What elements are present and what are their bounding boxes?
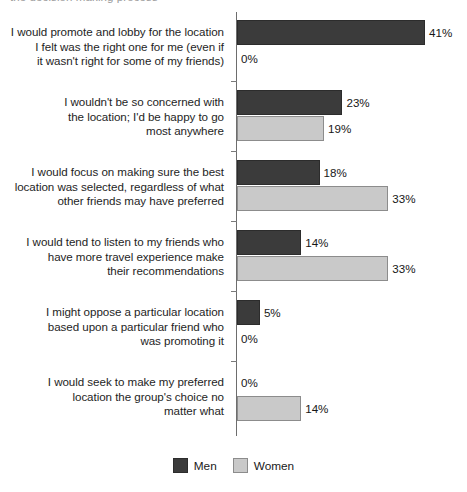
category-label-line: I would focus on making sure the best [3,165,224,180]
legend-swatch-men-icon [173,458,188,473]
bar-value-men: 18% [320,166,347,179]
legend-label-men: Men [194,459,217,473]
category-label: I would focus on making sure the bestloc… [3,165,231,209]
category-label-line: it wasn't right for some of my friends) [3,54,224,69]
category-label: I wouldn't be so concerned withthe locat… [3,95,231,139]
bar-row-women: 19% [237,116,351,141]
bar-row-women: 33% [237,186,416,211]
bar-row-women: 14% [237,396,328,421]
bar-value-women: 33% [388,262,415,275]
axis-tick [231,291,237,292]
bar-value-women: 19% [324,122,351,135]
bar-men [237,160,320,185]
category-label-line: location was selected, regardless of wha… [3,180,224,195]
legend-item-men: Men [173,458,217,473]
axis-tick [231,151,237,152]
bar-men [237,20,425,45]
bar-row-women: 33% [237,256,416,281]
bar-group: I wouldn't be so concerned withthe locat… [0,87,467,157]
category-label-line: matter what [3,404,224,419]
bar-value-men: 5% [260,306,281,319]
category-label-line: have more travel experience make [3,250,224,265]
bar-group: I would seek to make my preferredlocatio… [0,367,467,437]
bar-row-men: 5% [237,300,281,325]
category-label-line: location the group's choice no [3,390,224,405]
bar-men [237,300,260,325]
legend-label-women: Women [254,459,294,473]
bar-value-men: 0% [237,376,258,389]
bar-group: I would promote and lobby for the locati… [0,17,467,87]
legend-swatch-women-icon [233,458,248,473]
category-label: I might oppose a particular locationbase… [3,305,231,349]
bar-row-men: 14% [237,230,328,255]
category-label-line: their recommendations [3,264,224,279]
bar-row-men: 41% [237,20,452,45]
bar-value-women: 14% [301,402,328,415]
category-label-line: was promoting it [3,334,224,349]
legend-item-women: Women [233,458,294,473]
category-label-line: I might oppose a particular location [3,305,224,320]
category-label-line: based upon a particular friend who [3,320,224,335]
category-label-line: I wouldn't be so concerned with [3,95,224,110]
chart-page: the decision making process I would prom… [0,0,467,492]
bar-value-men: 23% [342,96,369,109]
category-label-line: the location; I'd be happy to go [3,110,224,125]
category-label-line: I would tend to listen to my friends who [3,235,224,250]
bar-value-women: 0% [237,332,258,345]
bar-row-women: 0% [237,46,258,71]
bar-value-women: 0% [237,52,258,65]
category-label-line: I would seek to make my preferred [3,375,224,390]
category-label-line: most anywhere [3,124,224,139]
axis-tick [231,81,237,82]
bar-value-men: 14% [301,236,328,249]
bar-row-women: 0% [237,326,258,351]
axis-tick [231,221,237,222]
bar-value-women: 33% [388,192,415,205]
bar-value-men: 41% [425,26,452,39]
bar-row-men: 0% [237,370,258,395]
category-label: I would promote and lobby for the locati… [3,25,231,69]
bar-women [237,396,301,421]
category-label: I would seek to make my preferredlocatio… [3,375,231,419]
bar-men [237,230,301,255]
bar-group: I might oppose a particular locationbase… [0,297,467,367]
clipped-top-caption: the decision making process [10,0,240,3]
category-label: I would tend to listen to my friends who… [3,235,231,279]
bar-group: I would focus on making sure the bestloc… [0,157,467,227]
bar-row-men: 23% [237,90,370,115]
category-label-line: I would promote and lobby for the locati… [3,25,224,40]
bar-women [237,116,324,141]
bar-women [237,256,388,281]
axis-tick [231,361,237,362]
chart-legend: Men Women [0,458,467,473]
chart-plot-area: I would promote and lobby for the locati… [0,12,467,440]
bar-row-men: 18% [237,160,347,185]
category-label-line: other friends may have preferred [3,194,224,209]
bar-group: I would tend to listen to my friends who… [0,227,467,297]
bar-men [237,90,342,115]
category-label-line: I felt was the right one for me (even if [3,40,224,55]
bar-women [237,186,388,211]
